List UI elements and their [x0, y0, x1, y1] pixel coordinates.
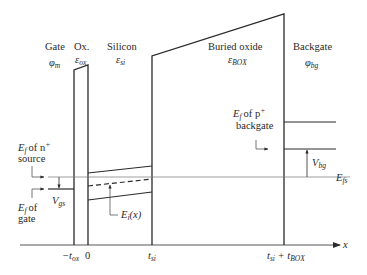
- intrinsic-level: [88, 179, 152, 186]
- ef-source-pointer: [32, 166, 44, 177]
- vbg-label: Vbg: [312, 157, 326, 170]
- box-permittivity-label: εBOX: [228, 54, 247, 67]
- ef-gate-label-line2: gate: [18, 213, 36, 224]
- ei-pointer: [110, 185, 118, 215]
- tick-minus-tox: −tox: [62, 250, 80, 263]
- gate-label: Gate: [45, 41, 65, 52]
- ef-backgate-label-line2: backgate: [236, 120, 274, 131]
- vgs-label: Vgs: [52, 195, 65, 208]
- gate-oxide-band: [74, 65, 88, 245]
- band-diagram: x Gate φm Ox. εox Silicon εsi Buried oxi…: [0, 0, 367, 275]
- efs-label: Efs: [335, 172, 348, 185]
- oxide-permittivity-label: εox: [75, 54, 87, 67]
- tick-tsi-plus-tbox: tsi + tBOX: [267, 250, 305, 263]
- ei-label: Ei(x): [120, 209, 142, 222]
- tick-tsi: tsi: [148, 250, 156, 263]
- ef-backgate-label: Efof p+: [232, 106, 265, 121]
- x-axis-label: x: [342, 239, 348, 250]
- conduction-band: [88, 166, 152, 173]
- backgate-label: Backgate: [293, 41, 332, 52]
- silicon-label: Silicon: [107, 41, 138, 52]
- silicon-permittivity-label: εsi: [116, 54, 125, 67]
- valence-band: [88, 192, 152, 200]
- tick-zero: 0: [85, 250, 90, 261]
- oxide-label: Ox.: [74, 41, 89, 52]
- buried-oxide-label: Buried oxide: [208, 41, 263, 52]
- ef-gate-pointer: [32, 189, 44, 198]
- gate-workfunction-label: φm: [49, 57, 61, 70]
- ef-backgate-pointer: [256, 140, 268, 149]
- backgate-workfunction-label: φbg: [305, 57, 319, 70]
- ef-source-label-line2: source: [18, 153, 46, 164]
